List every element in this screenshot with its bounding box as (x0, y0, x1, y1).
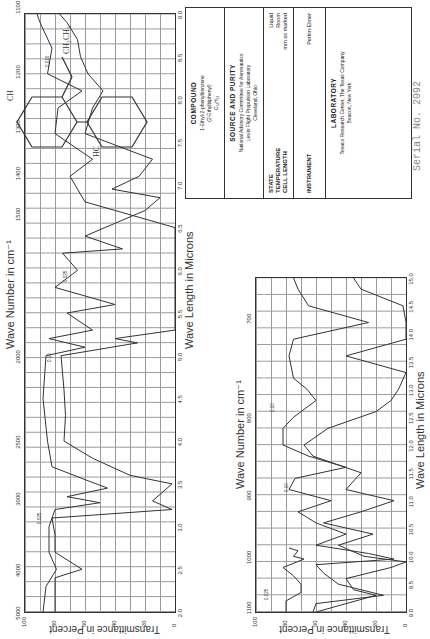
conditions-section: STATELiquid TEMPERATURERoom CELL LENGTHm… (264, 8, 294, 198)
atom-label: HC (92, 146, 101, 157)
x-tick-label: 3.5 (177, 481, 183, 489)
chart1-y-axis-title: Transmittance in Percent (49, 624, 160, 635)
x-tick-label: 5.0 (177, 353, 183, 361)
wavenumber-tick-label: 3000 (15, 492, 21, 505)
chart2-annotation: 0.10 (284, 483, 289, 492)
x-tick-label: 15.0 (408, 273, 414, 285)
source-header: SOURCE AND PURITY (229, 13, 236, 193)
chart1-annotation: 0.025 (63, 271, 68, 282)
wavenumber-tick-label: 1000 (246, 551, 252, 564)
chart2-annotation: 0.025 (264, 589, 269, 600)
x-tick-label: 3.0 (177, 523, 183, 531)
chart1-bottom-axis-title: Wave Length in Microns (183, 231, 195, 349)
x-tick-label: 7.0 (177, 182, 183, 190)
instrument-section: INSTRUMENTPerkin-Elmer (294, 8, 326, 198)
ethyl-substituent: CH₂CH₃ (62, 26, 71, 54)
x-tick-label: 9.0 (408, 609, 414, 617)
wavenumber-tick-label: 2000 (15, 350, 21, 363)
wavenumber-tick-label: 900 (246, 490, 252, 500)
laboratory-line: Texaco Research Center, The Texas Compan… (339, 13, 346, 193)
x-tick-label: 7.5 (177, 139, 183, 147)
x-tick-label: 10.0 (408, 552, 414, 564)
spectrum-page: Wave Number in cm⁻¹ 0.025 0.10 0.025 0.0… (0, 0, 430, 639)
wavenumber-tick-label: 1100 (246, 602, 252, 615)
source-line: Lewis Flight Propulsion Laboratory (245, 13, 252, 193)
chart2-annotation: 0.10 (270, 403, 275, 412)
x-tick-label: 4.5 (177, 395, 183, 403)
chart2-y-axis-title: Transmittance in Percent (279, 624, 390, 635)
laboratory-header: LABORATORY (330, 13, 337, 193)
x-tick-label: 8.5 (177, 54, 183, 62)
serial-number: Serial No. 2092 (412, 81, 423, 171)
chart2-curves (256, 278, 406, 612)
compound-section: COMPOUND 1-Ethyl-2-phenylbenzene (2-Ethy… (186, 8, 225, 198)
y-tick-label: 0 (171, 624, 177, 627)
x-tick-label: 13.5 (408, 357, 414, 369)
state-label: STATE (268, 174, 275, 193)
x-tick-label: 8.0 (177, 96, 183, 104)
x-tick-label: 9.5 (408, 581, 414, 589)
instrument-value: Perkin-Elmer (306, 13, 313, 45)
atom-label: CH (6, 90, 15, 101)
source-section: SOURCE AND PURITY National Advisory Comm… (225, 8, 264, 198)
chart2-bottom-axis-title: Wave Length in Microns (414, 371, 426, 489)
state-value: Liquid (268, 13, 275, 28)
molecule-structure-diagram (2, 7, 177, 177)
compound-name: 1-Ethyl-2-phenylbenzene (199, 13, 206, 193)
source-line: National Advisory Committee for Aeronaut… (238, 13, 245, 193)
wavenumber-tick-label: 800 (246, 413, 252, 423)
x-tick-label: 14.0 (408, 329, 414, 341)
y-tick-label: 0 (402, 624, 408, 627)
temperature-label: TEMPERATURE (275, 148, 282, 193)
x-tick-label: 2.0 (177, 609, 183, 617)
temperature-value: Room (275, 13, 282, 28)
chart1-annotation: 0.025 (37, 513, 42, 524)
compound-formula: C₁₄H₁₄ (213, 13, 220, 193)
x-tick-label: 2.5 (177, 566, 183, 574)
chart2-plot-area: 0.025 0.10 0.10 (255, 277, 407, 613)
compound-alt-name: (2-Ethylbiphenyl) (206, 13, 213, 193)
chart1-top-axis-title: Wave Number in cm⁻¹ (4, 240, 17, 349)
wavenumber-tick-label: 4000 (15, 564, 21, 577)
y-tick-label: 100 (252, 617, 258, 627)
x-tick-label: 11.0 (408, 496, 414, 507)
source-line: Cleveland, Ohio (252, 13, 259, 193)
cell-length-value: mm as marked (282, 13, 289, 49)
wavenumber-tick-label: 700 (246, 314, 252, 324)
compound-header: COMPOUND (190, 13, 197, 193)
laboratory-line: Beacon, New York (346, 13, 353, 193)
cell-length-label: CELL LENGTH (282, 151, 289, 193)
x-tick-label: 10.5 (408, 524, 414, 536)
wavenumber-tick-label: 1500 (15, 208, 21, 221)
wavenumber-tick-label: 2500 (15, 435, 21, 448)
x-tick-label: 4.0 (177, 438, 183, 446)
chart2-top-axis-title: Wave Number in cm⁻¹ (234, 380, 247, 489)
sample-info-box: COMPOUND 1-Ethyl-2-phenylbenzene (2-Ethy… (185, 7, 412, 199)
x-tick-label: 9.0 (177, 11, 183, 19)
laboratory-section: LABORATORY Texaco Research Center, The T… (326, 8, 357, 198)
chart1-annotation: 0.10 (47, 353, 52, 362)
y-tick-label: 100 (21, 617, 27, 627)
x-tick-label: 14.5 (408, 301, 414, 313)
instrument-label: INSTRUMENT (306, 154, 313, 193)
